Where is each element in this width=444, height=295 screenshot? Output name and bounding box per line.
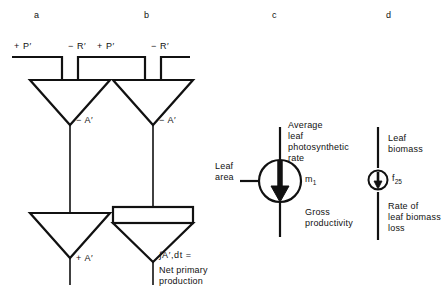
panel-a-label-net-assimilation-negative: − A′: [76, 115, 93, 126]
panel-a-upper-triangle: [30, 80, 110, 125]
panel-d-symbol-subscript: 25: [395, 178, 402, 185]
panel-d-label-rate-of-leaf-biomass-loss: Rate of leaf biomass loss: [388, 201, 441, 234]
panel-a-label-gross-photosynthesis: + P′: [14, 41, 32, 52]
panel-letter-b: b: [144, 10, 149, 20]
panel-a-input-line-r: [78, 57, 107, 80]
panel-b-label-net-assimilation-negative: − A′: [159, 115, 176, 126]
panel-letter-a: a: [34, 10, 39, 20]
panel-c-label-average-leaf-photosynthetic-rate: Average leaf photosynthetic rate: [288, 120, 349, 164]
panel-d-symbol-flux: f25: [392, 173, 402, 187]
panel-c-label-gross-productivity: Gross productivity: [305, 207, 353, 229]
energy-flow-diagram-figure: a b c d + P′ − R′ − A′ + A′ + P′ − R′ − …: [0, 0, 444, 295]
panel-b-integrator-tank: [113, 207, 193, 223]
panel-c-symbol-subscript: 1: [313, 179, 317, 186]
panel-b-input-line-p: [95, 57, 145, 80]
panel-c-arrow-head: [271, 186, 289, 202]
panel-c-symbol-multiplier: m1: [305, 174, 316, 188]
panel-c-symbol-base: m: [305, 174, 313, 184]
panel-a-input-line-p: [12, 57, 62, 80]
panel-a-graphics: [12, 57, 110, 285]
panel-a-lower-triangle: [30, 213, 110, 258]
panel-d-arrow-head: [374, 181, 382, 189]
panel-d-label-leaf-biomass: Leaf biomass: [388, 133, 423, 155]
diagram-canvas: [0, 0, 444, 295]
panel-b-label-respiration: − R′: [151, 41, 169, 52]
panel-a-label-net-assimilation-positive: + A′: [76, 253, 93, 264]
panel-c-label-leaf-area: Leaf area: [215, 161, 234, 183]
panel-a-label-respiration: − R′: [68, 41, 86, 52]
panel-b-label-gross-photosynthesis: + P′: [97, 41, 115, 52]
panel-letter-d: d: [386, 10, 391, 20]
panel-letter-c: c: [272, 10, 277, 20]
panel-b-upper-triangle: [113, 80, 193, 125]
panel-b-input-line-r: [161, 57, 190, 80]
panel-b-label-integral: ∫A′,dt =: [159, 250, 192, 261]
panel-d-graphics: [369, 127, 388, 240]
panel-b-caption-net-primary-production: Net primary production: [159, 265, 208, 287]
